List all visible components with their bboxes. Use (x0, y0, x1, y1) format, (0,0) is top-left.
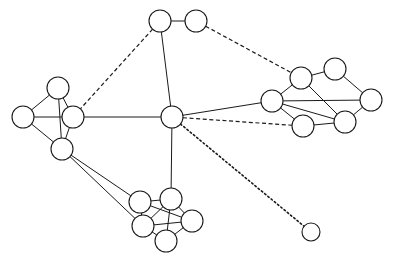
graph-node (160, 188, 182, 210)
graph-node (47, 77, 69, 99)
network-graph-figure (0, 0, 395, 266)
graph-node (292, 115, 314, 137)
graph-node (334, 111, 356, 133)
graph-edge-solid (343, 76, 362, 93)
graph-node (149, 10, 171, 32)
graph-edge-solid (32, 124, 54, 142)
graph-node (181, 210, 203, 232)
graph-node (161, 106, 183, 128)
graph-node (261, 90, 283, 112)
graph-edge-solid (283, 100, 360, 101)
node-layer (12, 10, 382, 252)
graph-edge-solid (151, 200, 160, 201)
graph-edge-solid (312, 72, 325, 75)
graph-edge-solid (152, 232, 157, 235)
graph-edge-solid (175, 228, 184, 235)
graph-edge-solid (183, 103, 261, 116)
graph-node (132, 215, 154, 237)
graph-node (12, 106, 34, 128)
graph-edge-dashed (206, 26, 292, 73)
graph-edge-solid (314, 123, 334, 125)
graph-node (51, 138, 73, 160)
graph-node (324, 58, 346, 80)
graph-edge-solid (31, 95, 49, 110)
graph-node (62, 106, 84, 128)
graph-node (290, 67, 312, 89)
graph-edge-solid (71, 155, 131, 196)
graph-edge-solid (281, 108, 295, 119)
graph-node (302, 223, 320, 241)
graph-edge-solid (179, 207, 185, 213)
graph-edge-solid (70, 157, 135, 219)
graph-node (360, 89, 382, 111)
graph-edge-solid (281, 85, 293, 94)
graph-edge-solid (66, 127, 70, 138)
graph-node (155, 230, 177, 252)
graph-edge-dashed (80, 29, 152, 109)
graph-edge-solid (161, 32, 170, 106)
graph-node (129, 191, 151, 213)
graph-node (185, 10, 207, 32)
graph-edge-solid (171, 128, 172, 188)
graph-edge-dashed (183, 118, 292, 126)
graph-edge-dotted (180, 124, 304, 226)
graph-edge-solid (63, 98, 68, 107)
graph-edge-solid (59, 99, 62, 138)
graph-edge-solid (353, 107, 362, 115)
